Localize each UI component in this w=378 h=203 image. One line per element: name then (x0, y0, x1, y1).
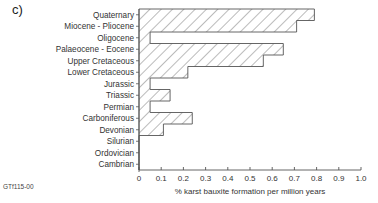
category-label: Cambrian (99, 160, 135, 169)
category-label: Triassic (106, 91, 134, 100)
x-tick-label: 0.8 (311, 174, 323, 183)
axes: 00.10.20.30.40.50.60.70.80.91.0 (136, 9, 367, 183)
category-label: Silurian (107, 137, 135, 146)
bars-group (139, 9, 314, 170)
x-tick-label: 0 (137, 174, 142, 183)
x-tick-label: 0.3 (200, 174, 212, 183)
x-tick-label: 0.1 (156, 174, 168, 183)
category-label: Ordovician (95, 149, 135, 158)
category-label: Jurassic (104, 80, 134, 89)
category-label: Devonian (99, 126, 134, 135)
category-label: Oligocene (97, 34, 134, 43)
category-label: Carboniferous (83, 114, 134, 123)
category-label: Lower Cretaceous (68, 68, 134, 77)
x-tick-label: 0.9 (333, 174, 345, 183)
category-label: Upper Cretaceous (68, 57, 134, 66)
category-label: Palaeocene - Eocene (56, 45, 135, 54)
figure-code: GTf115-00 (3, 183, 34, 190)
x-tick-label: 0.2 (178, 174, 190, 183)
x-tick-label: 0.7 (289, 174, 301, 183)
category-label: Miocene - Pliocene (64, 22, 134, 31)
bar-outline (139, 9, 314, 170)
x-axis-label: % karst bauxite formation per million ye… (175, 187, 326, 196)
x-tick-label: 0.6 (267, 174, 279, 183)
bar-chart: QuaternaryMiocene - PlioceneOligocenePal… (0, 0, 378, 203)
category-label: Quaternary (93, 11, 135, 20)
category-label: Permian (104, 103, 135, 112)
x-tick-label: 1.0 (355, 174, 367, 183)
x-tick-label: 0.4 (222, 174, 234, 183)
x-tick-label: 0.5 (244, 174, 256, 183)
category-labels: QuaternaryMiocene - PlioceneOligocenePal… (56, 11, 135, 170)
